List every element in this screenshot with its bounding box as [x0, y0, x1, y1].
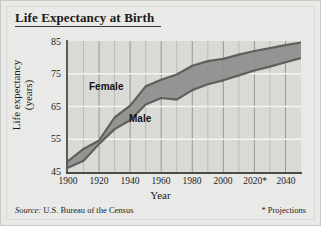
x-tick-2040: 2040	[266, 176, 306, 186]
page-title: Life Expectancy at Birth	[15, 10, 154, 26]
source-label: Source:	[15, 205, 41, 215]
x-axis-line	[66, 172, 302, 174]
projection-footnote: * Projections	[261, 205, 306, 215]
title-underline-rule	[15, 26, 161, 27]
series-label-male: Male	[129, 113, 151, 124]
y-axis-line	[66, 40, 68, 173]
y-tick-75: 75	[21, 69, 61, 79]
life-expectancy-chart-figure: Life Expectancy at Birth Life expectancy…	[0, 0, 321, 226]
series-label-female: Female	[89, 81, 123, 92]
chart-canvas	[68, 41, 301, 172]
x-axis-label: Year	[1, 189, 320, 201]
plot-area: Female Male	[68, 41, 301, 172]
source-caption: Source: U.S. Bureau of the Census	[15, 205, 133, 215]
y-tick-55: 55	[21, 134, 61, 144]
y-tick-65: 65	[21, 102, 61, 112]
source-value: U.S. Bureau of the Census	[41, 205, 133, 215]
y-tick-85: 85	[21, 37, 61, 47]
series-band-female-male	[68, 42, 301, 167]
